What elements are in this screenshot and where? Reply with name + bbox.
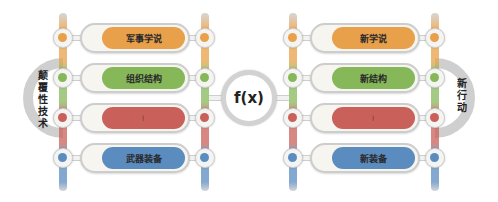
- capsule-weapons-equipment: 武器装备: [80, 143, 190, 173]
- node-dot: [58, 33, 67, 42]
- ellipsis-label: ······: [370, 115, 377, 120]
- node-dot: [58, 153, 67, 162]
- ellipsis-label: ······: [140, 115, 147, 120]
- capsule-new-equipment: 新装备: [310, 143, 420, 173]
- function-label: f(x): [234, 89, 264, 107]
- node-dot: [200, 33, 209, 42]
- pill-label: 武器装备: [126, 152, 162, 165]
- right-side-label: 新行动: [453, 78, 468, 114]
- node-orange: [283, 28, 303, 48]
- pill-new-doctrine: 新学说: [332, 27, 415, 49]
- pill-label: 军事学说: [126, 32, 162, 45]
- pill-label: 组织结构: [126, 72, 162, 85]
- node-dot: [288, 33, 297, 42]
- node-orange: [53, 28, 73, 48]
- pill-new-equipment: 新装备: [332, 147, 415, 169]
- node-red: [283, 108, 303, 128]
- pill-ellipsis: ······: [102, 107, 185, 129]
- node-blue: [53, 148, 73, 168]
- node-blue: [425, 148, 445, 168]
- capsule-organization-structure: 组织结构: [80, 63, 190, 93]
- node-orange: [425, 28, 445, 48]
- pill-label: 新装备: [360, 152, 387, 165]
- pill-label: 新结构: [360, 72, 387, 85]
- node-red: [53, 108, 73, 128]
- capsule-new-doctrine: 新学说: [310, 23, 420, 53]
- node-dot: [430, 153, 439, 162]
- pill-military-doctrine: 军事学说: [102, 27, 185, 49]
- capsule-new-structure: 新结构: [310, 63, 420, 93]
- capsule-ellipsis: ······: [80, 103, 190, 133]
- node-green: [425, 68, 445, 88]
- node-dot: [288, 113, 297, 122]
- pill-weapons-equipment: 武器装备: [102, 147, 185, 169]
- pill-organization-structure: 组织结构: [102, 67, 185, 89]
- node-dot: [288, 153, 297, 162]
- function-circle: f(x): [221, 70, 277, 126]
- node-dot: [58, 113, 67, 122]
- pill-label: 新学说: [360, 32, 387, 45]
- node-dot: [430, 73, 439, 82]
- pill-new-structure: 新结构: [332, 67, 415, 89]
- capsule-ellipsis: ······: [310, 103, 420, 133]
- node-blue: [195, 148, 215, 168]
- node-dot: [200, 153, 209, 162]
- node-dot: [430, 33, 439, 42]
- node-dot: [200, 113, 209, 122]
- node-orange: [195, 28, 215, 48]
- node-red: [195, 108, 215, 128]
- node-red: [425, 108, 445, 128]
- left-side-label: 颠覆性技术: [34, 70, 49, 130]
- capsule-military-doctrine: 军事学说: [80, 23, 190, 53]
- node-dot: [288, 73, 297, 82]
- pill-ellipsis: ······: [332, 107, 415, 129]
- node-dot: [200, 73, 209, 82]
- node-green: [283, 68, 303, 88]
- node-green: [53, 68, 73, 88]
- node-dot: [430, 113, 439, 122]
- center-right-link: [275, 95, 289, 101]
- node-blue: [283, 148, 303, 168]
- node-dot: [58, 73, 67, 82]
- node-green: [195, 68, 215, 88]
